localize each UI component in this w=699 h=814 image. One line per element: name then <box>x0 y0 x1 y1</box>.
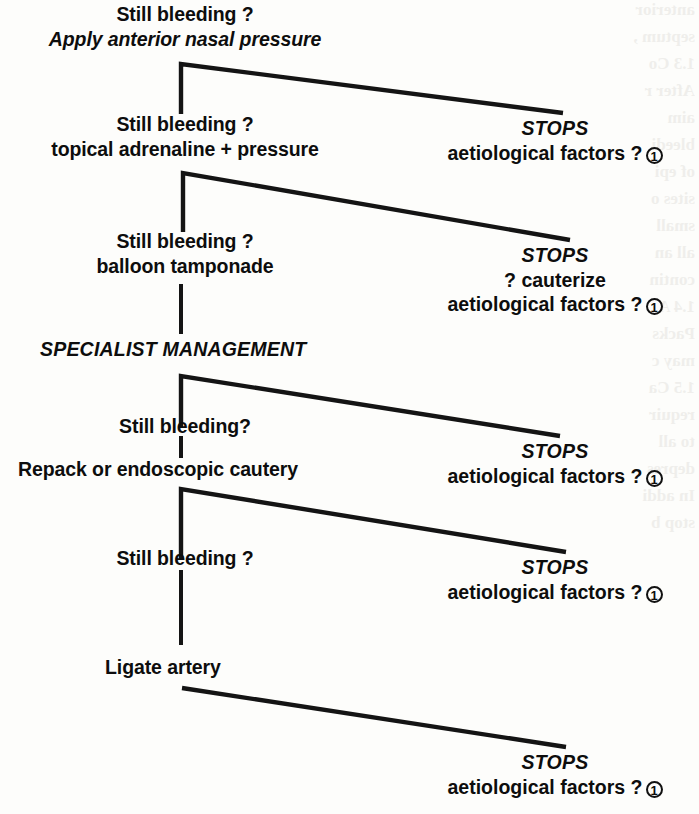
outcome-node-1: STOPS aetiological factors ?1 <box>425 116 685 165</box>
ghost-line: requir <box>613 405 699 425</box>
step-node-2: Still bleeding ? topical adrenaline + pr… <box>0 112 370 161</box>
step-line-primary: Ligate artery <box>105 655 221 680</box>
branch-1 <box>181 64 563 114</box>
ghost-line: septum , <box>613 27 699 47</box>
branch-5 <box>182 688 566 747</box>
outcome-node-3: STOPS aetiological factors ?1 <box>425 439 685 488</box>
step-line-primary: Still bleeding? <box>0 414 370 439</box>
ghost-line: sites o <box>613 189 699 209</box>
ghost-line: In addi <box>613 486 699 506</box>
outcome-stops-label: STOPS <box>425 439 685 464</box>
step-node-1: Still bleeding ? Apply anterior nasal pr… <box>0 2 370 51</box>
outcome-stops-label: STOPS <box>425 750 685 775</box>
ghost-line: Packs <box>613 324 699 344</box>
footnote-marker-icon: 1 <box>646 147 663 164</box>
footnote-marker-icon: 1 <box>646 586 663 603</box>
step-node-4-secondary: Repack or endoscopic cautery <box>18 457 298 482</box>
outcome-detail-line: aetiological factors ?1 <box>425 775 685 800</box>
outcome-node-5: STOPS aetiological factors ?1 <box>425 750 685 799</box>
phase-heading-label: SPECIALIST MANAGEMENT <box>40 338 306 360</box>
ghost-line: small <box>613 216 699 236</box>
step-line-primary: Still bleeding ? <box>0 229 370 254</box>
outcome-detail-line: aetiological factors ?1 <box>425 464 685 489</box>
step-line-primary: Still bleeding ? <box>0 2 370 27</box>
outcome-detail-text: aetiological factors ? <box>447 142 642 164</box>
step-line-primary: Still bleeding ? <box>0 546 370 571</box>
ghost-line: may c <box>613 351 699 371</box>
footnote-marker-icon: 1 <box>646 470 663 487</box>
ghost-line: 1.5 Ca <box>613 378 699 398</box>
outcome-detail-text: aetiological factors ? <box>447 465 642 487</box>
outcome-detail-line: aetiological factors ?1 <box>425 292 685 317</box>
step-node-5: Still bleeding ? <box>0 546 370 571</box>
ghost-line: anterior <box>613 0 699 20</box>
ghost-line: After r <box>613 81 699 101</box>
step-node-6: Ligate artery <box>105 655 221 680</box>
outcome-detail-line: aetiological factors ?1 <box>425 580 685 605</box>
flowchart-page: anterior septum , 1.3 Co After r aim ble… <box>0 0 699 814</box>
outcome-stops-label: STOPS <box>425 555 685 580</box>
outcome-detail-text: aetiological factors ? <box>447 581 642 603</box>
step-line-secondary: topical adrenaline + pressure <box>0 137 370 162</box>
outcome-stops-label: STOPS <box>425 116 685 141</box>
ghost-line: stop b <box>613 513 699 533</box>
step-node-4-primary: Still bleeding? <box>0 414 370 439</box>
outcome-detail-line: ? cauterize <box>425 268 685 293</box>
step-line-primary: Still bleeding ? <box>0 112 370 137</box>
ghost-line: 1.3 Co <box>613 54 699 74</box>
footnote-marker-icon: 1 <box>646 781 663 798</box>
step-line-secondary: Repack or endoscopic cautery <box>18 457 298 482</box>
step-line-secondary: Apply anterior nasal pressure <box>0 27 370 52</box>
phase-heading-specialist-management: SPECIALIST MANAGEMENT <box>40 337 306 362</box>
outcome-node-4: STOPS aetiological factors ?1 <box>425 555 685 604</box>
outcome-detail-text: aetiological factors ? <box>447 776 642 798</box>
step-node-3: Still bleeding ? balloon tamponade <box>0 229 370 278</box>
footnote-marker-icon: 1 <box>646 298 663 315</box>
outcome-detail-text: aetiological factors ? <box>447 293 642 315</box>
outcome-detail-line: aetiological factors ?1 <box>425 141 685 166</box>
outcome-stops-label: STOPS <box>425 243 685 268</box>
step-line-secondary: balloon tamponade <box>0 254 370 279</box>
outcome-node-2: STOPS ? cauterize aetiological factors ?… <box>425 243 685 317</box>
